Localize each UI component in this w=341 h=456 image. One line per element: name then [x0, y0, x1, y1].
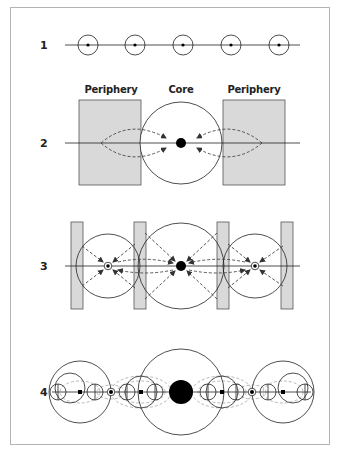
core-periphery-diagram: 1 2 3 4 Periphery Core Periphery	[0, 0, 341, 456]
left-periphery-zone	[79, 100, 141, 185]
right-subcore-node	[253, 264, 257, 268]
core-node	[176, 138, 186, 148]
main-core-node	[176, 261, 186, 271]
row-3-multi-core	[65, 222, 300, 309]
row-1-network	[65, 35, 300, 55]
left-subcore-node	[106, 264, 110, 268]
diagram-graphics	[0, 0, 341, 456]
row-2-core-periphery	[65, 100, 300, 185]
primary-core-node	[169, 380, 193, 404]
row-4-hierarchical-network	[49, 349, 314, 435]
right-periphery-zone	[223, 100, 285, 185]
